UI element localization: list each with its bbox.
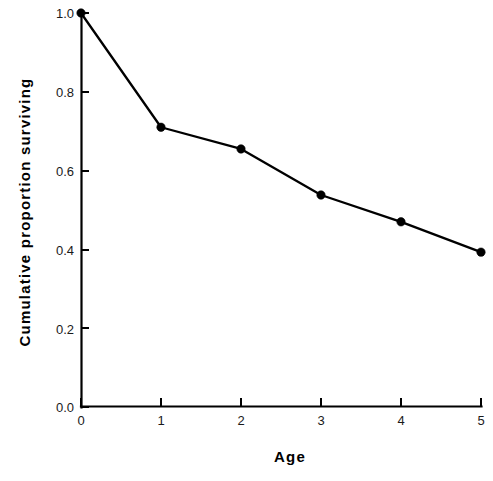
data-point [477, 248, 485, 256]
page-caption-fragment [0, 472, 493, 481]
data-point [237, 145, 245, 153]
y-tick-labels: 1.0 0.8 0.6 0.4 0.2 0.0 [56, 6, 74, 415]
x-tick-label: 5 [477, 413, 484, 428]
x-tick-label: 3 [317, 413, 324, 428]
y-tick-label: 0.0 [56, 400, 74, 415]
x-tick-labels: 0 1 2 3 4 5 [77, 413, 484, 428]
y-tick-label: 0.4 [56, 243, 74, 258]
data-point [317, 191, 325, 199]
data-point [77, 9, 85, 17]
y-tick-label: 0.2 [56, 322, 74, 337]
survival-curve-line [81, 13, 481, 252]
survival-curve-markers [77, 9, 485, 257]
x-tick-label: 1 [157, 413, 164, 428]
x-tick-label: 0 [77, 413, 84, 428]
data-point [397, 218, 405, 226]
y-tick-label: 0.6 [56, 164, 74, 179]
y-axis-title: Cumulative proportion surviving [16, 78, 33, 347]
x-axis-title: Age [274, 448, 306, 465]
y-tick-label: 1.0 [56, 6, 74, 21]
figure-page: Cumulative proportion surviving 1.0 0.8 … [0, 0, 493, 481]
x-tick-label: 2 [237, 413, 244, 428]
data-point [157, 123, 165, 131]
survivorship-line-chart: Cumulative proportion surviving 1.0 0.8 … [0, 0, 493, 481]
y-tick-label: 0.8 [56, 85, 74, 100]
x-tick-label: 4 [397, 413, 404, 428]
